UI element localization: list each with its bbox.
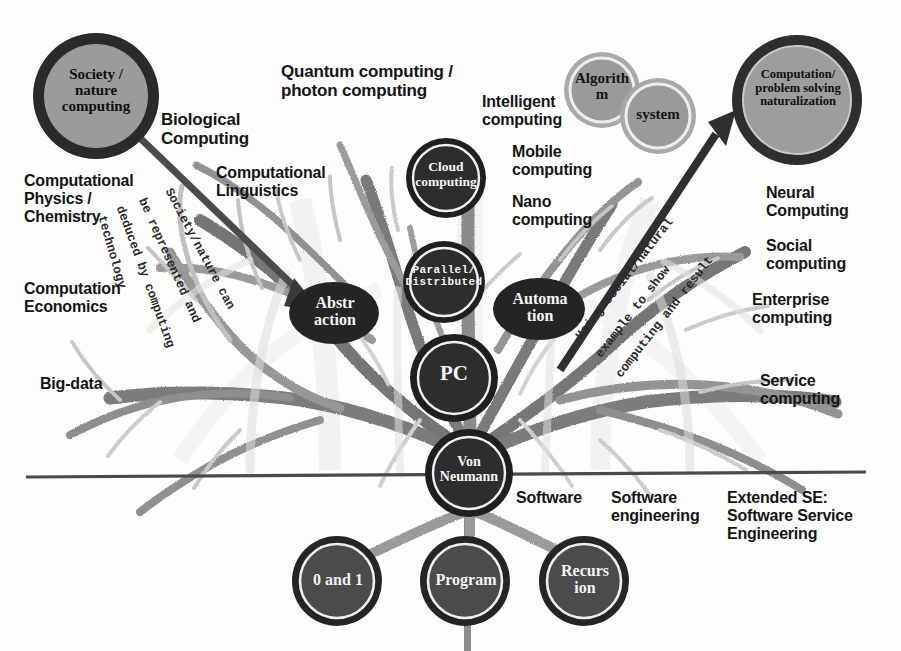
label-intelligent-computing: Intelligent computing bbox=[482, 93, 562, 129]
label-neural-computing: Neural Computing bbox=[766, 184, 849, 220]
label-extended-se: Extended SE: Software Service Engineerin… bbox=[727, 489, 853, 543]
label-service-computing: Service computing bbox=[760, 372, 840, 408]
node-parallel-distributed[interactable] bbox=[403, 241, 485, 323]
label-computation-economics: Computation Economics bbox=[24, 280, 120, 316]
label-software: Software bbox=[516, 489, 582, 507]
label-quantum-photon-computing: Quantum computing / photon computing bbox=[281, 62, 453, 100]
node-program[interactable] bbox=[420, 536, 510, 626]
node-zero-and-one[interactable] bbox=[292, 536, 382, 626]
node-automation[interactable] bbox=[493, 278, 585, 340]
label-enterprise-computing: Enterprise computing bbox=[752, 291, 832, 327]
label-software-engineering: Software engineering bbox=[611, 489, 699, 525]
node-society-nature[interactable] bbox=[33, 33, 159, 159]
node-recursion[interactable] bbox=[539, 536, 629, 626]
node-system[interactable] bbox=[620, 78, 696, 154]
diagram-canvas: Society / nature computing Computation/ … bbox=[0, 0, 901, 651]
node-computation-goal[interactable] bbox=[732, 35, 862, 165]
label-nano-computing: Nano computing bbox=[512, 193, 592, 229]
label-social-computing: Social computing bbox=[766, 237, 846, 273]
node-pc[interactable] bbox=[410, 334, 498, 422]
label-big-data: Big-data bbox=[40, 375, 102, 393]
node-abstraction[interactable] bbox=[289, 282, 379, 344]
node-cloud-computing[interactable] bbox=[406, 138, 486, 218]
node-von-neumann[interactable] bbox=[425, 429, 513, 517]
label-mobile-computing: Mobile computing bbox=[512, 143, 592, 179]
label-computational-linguistics: Computational Linguistics bbox=[216, 164, 325, 200]
label-biological-computing: Biological Computing bbox=[161, 110, 249, 148]
